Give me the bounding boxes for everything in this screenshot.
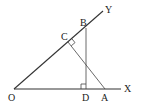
- label-c: C: [61, 31, 68, 42]
- label-b: B: [80, 17, 87, 28]
- segment-ca: [68, 42, 105, 89]
- ray-oy: [14, 11, 103, 89]
- label-o: O: [8, 92, 15, 103]
- label-d: D: [82, 92, 89, 103]
- label-y: Y: [105, 4, 112, 15]
- right-angle-d: [81, 84, 86, 89]
- right-angle-c: [71, 39, 75, 46]
- label-x: X: [124, 83, 132, 94]
- geometry-diagram: O X Y B C D A: [0, 0, 141, 107]
- label-a: A: [101, 92, 109, 103]
